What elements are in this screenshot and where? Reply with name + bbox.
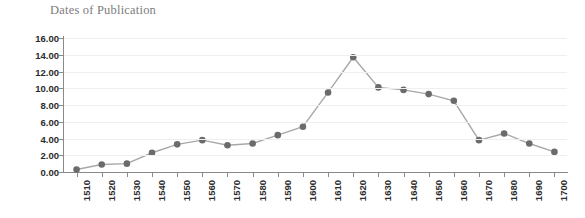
data-point-marker (325, 89, 332, 96)
x-axis-tick-label: 1510 (81, 180, 92, 201)
x-axis-tick-mark (353, 173, 354, 177)
x-axis-tick-mark (253, 173, 254, 177)
data-point-marker (300, 123, 307, 130)
x-axis-tick-label: 1580 (257, 180, 268, 201)
x-axis-tick-label: 1600 (307, 180, 318, 201)
x-axis-tick-mark (529, 173, 530, 177)
x-axis-tick-label: 1650 (433, 180, 444, 201)
y-axis-tick-label: 2.00 (41, 150, 60, 161)
gridline-y (64, 155, 567, 156)
data-point-marker (425, 91, 432, 98)
data-point-marker (249, 140, 256, 147)
x-axis-tick-mark (177, 173, 178, 177)
x-axis-tick-mark (429, 173, 430, 177)
x-axis-tick-mark (479, 173, 480, 177)
y-axis-tick-mark (59, 155, 63, 156)
x-axis-tick-mark (554, 173, 555, 177)
x-axis-tick-label: 1690 (533, 180, 544, 201)
x-axis-tick-label: 1590 (282, 180, 293, 201)
plot-area (64, 38, 567, 172)
x-axis-tick-mark (378, 173, 379, 177)
data-point-marker (274, 132, 281, 139)
x-axis-tick-mark (404, 173, 405, 177)
gridline-y (64, 105, 567, 106)
y-axis-tick-mark (59, 105, 63, 106)
data-point-marker (174, 141, 181, 148)
y-axis-tick-label: 4.00 (41, 133, 60, 144)
y-axis-tick-label: 16.00 (35, 33, 59, 44)
x-axis-tick-label: 1560 (206, 180, 217, 201)
data-point-marker (451, 98, 458, 105)
chart-title: Dates of Publication (50, 3, 156, 18)
gridline-y (64, 38, 567, 39)
y-axis-tick-label: 8.00 (41, 100, 60, 111)
y-axis-tick-label: 0.00 (41, 167, 60, 178)
data-point-marker (124, 160, 131, 167)
x-axis-tick-mark (328, 173, 329, 177)
y-axis-tick-mark (59, 172, 63, 173)
gridline-y (64, 88, 567, 89)
x-axis-tick-mark (227, 173, 228, 177)
x-axis-tick-label: 1540 (156, 180, 167, 201)
x-axis-tick-mark (102, 173, 103, 177)
x-axis-tick-label: 1520 (106, 180, 117, 201)
x-axis-tick-mark (454, 173, 455, 177)
x-axis-tick-mark (127, 173, 128, 177)
x-axis-tick-label: 1660 (458, 180, 469, 201)
x-axis-tick-label: 1620 (357, 180, 368, 201)
data-point-marker (501, 130, 508, 137)
x-axis-tick-label: 1570 (231, 180, 242, 201)
y-axis-tick-label: 14.00 (35, 49, 59, 60)
x-axis-tick-mark (152, 173, 153, 177)
x-axis-tick-label: 1680 (508, 180, 519, 201)
x-axis-tick-mark (504, 173, 505, 177)
gridline-y (64, 55, 567, 56)
y-axis-tick-label: 12.00 (35, 66, 59, 77)
data-point-marker (551, 149, 558, 156)
y-axis-tick-label: 6.00 (41, 116, 60, 127)
gridline-y (64, 139, 567, 140)
data-point-marker (73, 166, 80, 173)
x-axis-tick-label: 1610 (332, 180, 343, 201)
y-axis-tick-label: 10.00 (35, 83, 59, 94)
gridline-y (64, 72, 567, 73)
x-axis-tick-mark (278, 173, 279, 177)
y-axis-tick-mark (59, 55, 63, 56)
y-axis-tick-mark (59, 122, 63, 123)
data-point-marker (98, 161, 105, 168)
y-axis-tick-mark (59, 72, 63, 73)
x-axis-tick-mark (303, 173, 304, 177)
y-axis-tick-mark (59, 38, 63, 39)
x-axis-tick-label: 1700 (558, 180, 569, 201)
x-axis-line (63, 172, 568, 173)
data-point-marker (224, 142, 231, 149)
y-axis-tick-mark (59, 139, 63, 140)
y-axis-tick-mark (59, 88, 63, 89)
chart-container: Dates of Publication 0.002.004.006.008.0… (0, 0, 585, 218)
x-axis-tick-label: 1550 (181, 180, 192, 201)
y-axis: 0.002.004.006.008.0010.0012.0014.0016.00 (0, 0, 59, 218)
x-axis-tick-mark (202, 173, 203, 177)
data-point-marker (526, 140, 533, 147)
gridline-y (64, 122, 567, 123)
x-axis-tick-label: 1640 (408, 180, 419, 201)
x-axis-tick-label: 1630 (382, 180, 393, 201)
x-axis-tick-mark (77, 173, 78, 177)
x-axis-tick-label: 1670 (483, 180, 494, 201)
x-axis-tick-label: 1530 (131, 180, 142, 201)
